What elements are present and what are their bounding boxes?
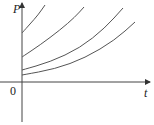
curve-1 bbox=[22, 5, 45, 33]
x-axis-label: t bbox=[144, 87, 147, 99]
y-axis-label: P bbox=[13, 3, 20, 15]
curve-3 bbox=[22, 8, 123, 70]
curve-group bbox=[22, 5, 135, 75]
chart-canvas bbox=[0, 0, 154, 125]
origin-label: 0 bbox=[10, 85, 16, 97]
curve-4 bbox=[22, 22, 135, 75]
